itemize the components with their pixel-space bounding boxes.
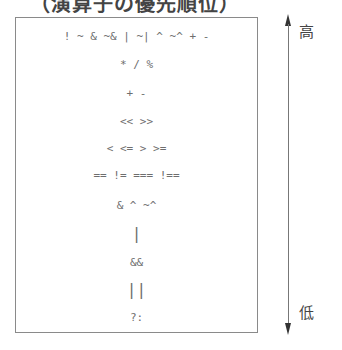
precedence-row-3: + -: [16, 87, 257, 101]
precedence-row-4: << >>: [16, 115, 257, 129]
precedence-row-10: ||: [16, 283, 257, 297]
precedence-box: ! ~ & ~& | ~| ^ ~^ + - * / % + - << >> <…: [15, 17, 258, 333]
precedence-axis-line: [288, 24, 289, 326]
precedence-row-6: == != === !==: [16, 169, 257, 183]
precedence-row-9: &&: [16, 256, 257, 270]
high-label: 高: [299, 24, 314, 40]
diagram-title: （演算子の優先順位）: [30, 0, 240, 17]
precedence-row-7: & ^ ~^: [16, 199, 257, 213]
low-label: 低: [299, 305, 314, 321]
precedence-row-2: * / %: [16, 58, 257, 72]
precedence-row-8: |: [16, 227, 257, 241]
precedence-row-1: ! ~ & ~& | ~| ^ ~^ + -: [16, 30, 257, 44]
precedence-row-5: < <= > >=: [16, 142, 257, 156]
arrow-down-icon: [285, 323, 291, 335]
precedence-row-11: ?:: [16, 311, 257, 325]
